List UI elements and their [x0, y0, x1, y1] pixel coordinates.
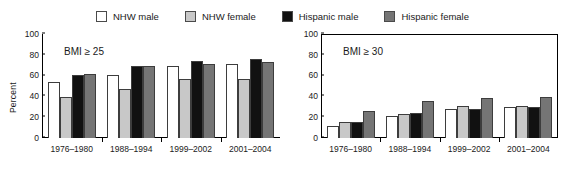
chart-panel-bmi-25: Percent BMI ≥ 25 020406080100 1976–19801…	[4, 28, 285, 178]
bar	[398, 114, 410, 138]
bar-group	[440, 34, 499, 138]
plot-area-left: BMI ≥ 25 020406080100	[42, 34, 280, 138]
bar	[203, 64, 215, 138]
legend-entry: NHW male	[96, 11, 159, 22]
y-axis-tick-mark	[321, 74, 324, 75]
bar	[540, 97, 552, 138]
bar-group	[380, 34, 439, 138]
y-axis-tick-mark	[42, 74, 45, 75]
legend-label: NHW male	[113, 11, 159, 22]
chart-panel-bmi-30: BMI ≥ 30 020406080100 1976–19801988–1994…	[288, 28, 565, 178]
legend-swatch-icon	[96, 11, 107, 22]
x-axis-tick-label: 1988–1994	[389, 144, 432, 154]
panel-annotation-left: BMI ≥ 25	[64, 46, 104, 57]
legend-swatch-icon	[185, 11, 196, 22]
y-axis-tick-mark	[42, 33, 45, 34]
bar	[119, 89, 131, 138]
y-axis-tick-mark	[42, 137, 45, 138]
bar	[84, 74, 96, 138]
y-axis-tick-mark	[321, 116, 324, 117]
bar	[516, 106, 528, 138]
bar	[191, 61, 203, 138]
bar	[48, 82, 60, 138]
x-axis-tick-mark	[161, 138, 162, 142]
bar	[167, 66, 179, 138]
bar	[143, 66, 155, 138]
x-axis-tick-label: 1999–2002	[448, 144, 491, 154]
bar	[339, 122, 351, 138]
y-axis-tick-label: 0	[34, 134, 42, 143]
chart-legend: NHW maleNHW femaleHispanic maleHispanic …	[0, 7, 565, 25]
bar	[422, 101, 434, 138]
y-axis-tick-label: 40	[30, 92, 42, 101]
bar	[262, 62, 274, 138]
bar-group	[499, 34, 558, 138]
bar	[363, 111, 375, 138]
x-axis-tick-mark	[380, 138, 381, 142]
chart-figure: NHW maleNHW femaleHispanic maleHispanic …	[0, 0, 565, 178]
y-axis-tick-label: 80	[309, 51, 321, 60]
y-axis-tick-label: 20	[309, 113, 321, 122]
bar	[351, 122, 363, 138]
bar	[386, 116, 398, 138]
bar	[72, 75, 84, 138]
bar	[107, 75, 119, 138]
bar	[60, 97, 72, 138]
bar	[131, 66, 143, 138]
y-axis-tick-mark	[321, 95, 324, 96]
y-axis-tick-mark	[321, 137, 324, 138]
bar	[238, 79, 250, 138]
legend-swatch-icon	[384, 11, 395, 22]
y-axis-tick-label: 100	[304, 30, 321, 39]
bar	[250, 59, 262, 138]
panel-annotation-right: BMI ≥ 30	[343, 46, 383, 57]
y-axis-tick-mark	[321, 53, 324, 54]
y-axis-tick-mark	[321, 33, 324, 34]
legend-label: NHW female	[202, 11, 256, 22]
bar	[528, 107, 540, 138]
y-axis-tick-mark	[42, 53, 45, 54]
plot-area-right: BMI ≥ 30 020406080100	[321, 34, 558, 138]
legend-entry: NHW female	[185, 11, 256, 22]
bar	[179, 79, 191, 138]
bar-group	[221, 34, 281, 138]
legend-swatch-icon	[282, 11, 293, 22]
y-axis-tick-label: 60	[309, 71, 321, 80]
x-axis-tick-label: 1976–1980	[329, 144, 372, 154]
x-axis-tick-label: 2001–2004	[229, 144, 272, 154]
bar	[445, 109, 457, 138]
legend-label: Hispanic male	[299, 11, 359, 22]
x-axis-labels-left: 1976–19801988–19941999–20022001–2004	[4, 144, 285, 158]
legend-entry: Hispanic male	[282, 11, 359, 22]
y-axis-tick-label: 20	[30, 113, 42, 122]
bar	[481, 98, 493, 138]
bar	[469, 109, 481, 138]
x-axis-tick-mark	[102, 138, 103, 142]
bar	[226, 64, 238, 138]
bar	[327, 126, 339, 138]
legend-label: Hispanic female	[401, 11, 469, 22]
x-axis-tick-label: 1988–1994	[110, 144, 153, 154]
bar-group	[161, 34, 221, 138]
x-axis-tick-label: 2001–2004	[507, 144, 550, 154]
x-axis-tick-mark	[221, 138, 222, 142]
x-axis-tick-label: 1999–2002	[169, 144, 212, 154]
x-axis-tick-mark	[499, 138, 500, 142]
x-axis-tick-label: 1976–1980	[50, 144, 93, 154]
y-axis-tick-mark	[42, 95, 45, 96]
y-axis-tick-label: 80	[30, 51, 42, 60]
y-axis-tick-label: 60	[30, 71, 42, 80]
y-axis-tick-label: 40	[309, 92, 321, 101]
y-axis-label-left: Percent	[6, 58, 20, 138]
x-axis-labels-right: 1976–19801988–19941999–20022001–2004	[288, 144, 565, 158]
legend-entry: Hispanic female	[384, 11, 469, 22]
bar	[457, 106, 469, 138]
bar-group	[102, 34, 162, 138]
bar	[504, 107, 516, 138]
x-axis-tick-mark	[440, 138, 441, 142]
y-axis-tick-label: 100	[25, 30, 42, 39]
bar	[410, 113, 422, 138]
y-axis-tick-label: 0	[313, 134, 321, 143]
y-axis-tick-mark	[42, 116, 45, 117]
